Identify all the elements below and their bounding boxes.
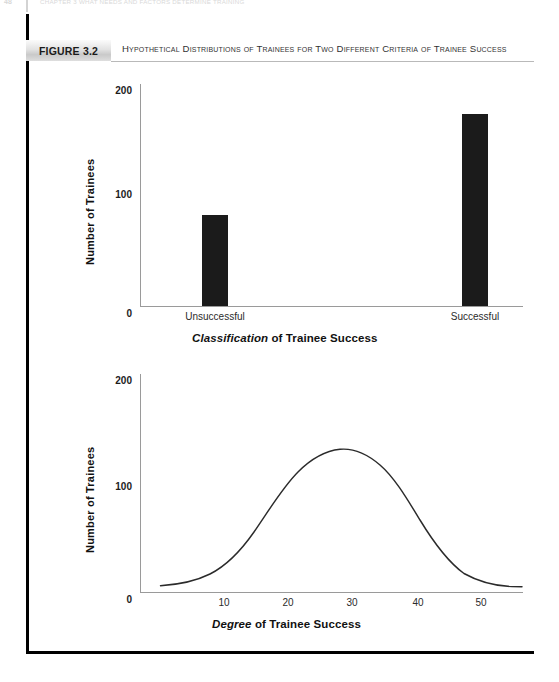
figure-number-box: FIGURE 3.2 — [26, 40, 111, 61]
running-head-divider — [26, 0, 28, 12]
bar-successful — [462, 114, 488, 306]
line-chart-degree: 200 100 0 Number of Trainees 10 20 30 40… — [0, 360, 559, 645]
figure-caption-text: Hypothetical Distributions of Trainees f… — [122, 43, 507, 54]
chart1-xtick-successful: Successful — [425, 311, 525, 322]
chart1-ytick-200: 200 — [98, 85, 132, 96]
chart2-xtick-20: 20 — [263, 597, 313, 608]
chart1-x-axis — [140, 306, 523, 307]
chart1-ytick-0: 0 — [98, 308, 132, 319]
chart1-y-axis-label: Number of Trainees — [84, 159, 96, 265]
chart1-ytick-100: 100 — [98, 189, 132, 200]
figure-number-label: FIGURE 3.2 — [39, 45, 98, 57]
chart2-xtick-10: 10 — [199, 597, 249, 608]
figure-caption-bar: FIGURE 3.2 Hypothetical Distributions of… — [26, 40, 534, 61]
figure-caption-underline — [111, 61, 534, 62]
figure-frame-bottom-rule — [26, 651, 534, 654]
chart2-xtick-30: 30 — [327, 597, 377, 608]
chart2-x-axis-label-emphasis: Degree — [212, 618, 252, 630]
chart2-ytick-0: 0 — [98, 594, 132, 605]
chart2-ytick-200: 200 — [98, 375, 132, 386]
chart2-y-axis-label: Number of Trainees — [84, 447, 96, 553]
bar-unsuccessful — [202, 215, 228, 307]
chart1-xtick-unsuccessful: Unsuccessful — [165, 311, 265, 322]
chart2-ytick-100: 100 — [98, 481, 132, 492]
chart1-x-axis-label-rest: of Trainee Success — [268, 332, 377, 344]
running-head: 48 CHAPTER 3 WHAT NEEDS AND FACTORS DETE… — [0, 0, 559, 12]
bar-chart-classification: 200 100 0 Number of Trainees Unsuccessfu… — [0, 70, 559, 335]
chart1-x-axis-label-emphasis: Classification — [192, 332, 268, 344]
chart2-distribution-curve — [140, 360, 540, 600]
chart2-xtick-40: 40 — [393, 597, 443, 608]
chart1-x-axis-label: Classification of Trainee Success — [192, 332, 377, 344]
page-folio-number: 48 — [4, 0, 12, 5]
chart2-x-axis-label-rest: of Trainee Success — [252, 618, 361, 630]
chart2-x-axis-label: Degree of Trainee Success — [212, 618, 361, 630]
running-head-text: CHAPTER 3 WHAT NEEDS AND FACTORS DETERMI… — [40, 0, 244, 5]
chart1-y-axis — [140, 84, 141, 306]
chart2-xtick-50: 50 — [456, 597, 506, 608]
